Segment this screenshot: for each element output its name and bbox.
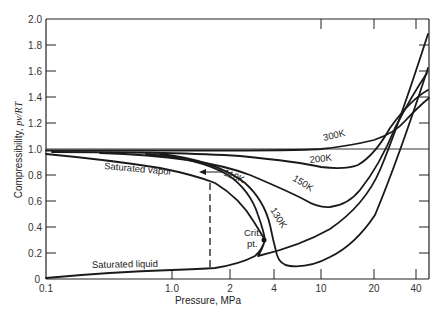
x-tick-label: 40 bbox=[410, 283, 422, 294]
y-axis-title: Compressibility, pv/RT bbox=[13, 100, 24, 198]
x-tick-label: 10 bbox=[315, 283, 327, 294]
compressibility-chart: 0 0.2 0.4 0.6 0.8 1.0 1.2 1.4 1.6 1.8 2.… bbox=[0, 0, 447, 318]
label-saturated-liquid: Saturated liquid bbox=[92, 258, 158, 270]
y-tick-label: 0.6 bbox=[28, 196, 42, 207]
y-tick-label: 0.2 bbox=[28, 248, 42, 259]
x-tick-label: 2 bbox=[227, 283, 233, 294]
curve-300k bbox=[46, 98, 429, 151]
x-tick-label: 4 bbox=[271, 283, 277, 294]
curves bbox=[46, 34, 429, 278]
label-crit: Crit. bbox=[244, 227, 261, 238]
y-tick-label: 1.2 bbox=[28, 118, 42, 129]
y-tick-label: 1.6 bbox=[28, 66, 42, 77]
y-tick-label: 2.0 bbox=[28, 14, 42, 25]
label-130k: 130K bbox=[268, 205, 289, 230]
y-tick-label: 0.4 bbox=[28, 222, 42, 233]
curve-130k bbox=[160, 68, 428, 266]
y-tick-label: 1.4 bbox=[28, 92, 42, 103]
curve-150k bbox=[100, 73, 427, 207]
x-axis-title: Pressure, MPa bbox=[175, 295, 242, 306]
x-tick-label: 0.1 bbox=[39, 283, 53, 294]
x-tick-labels: 0.1 1.0 2 4 10 20 40 bbox=[39, 283, 422, 294]
y-tick-label: 1.0 bbox=[28, 144, 42, 155]
y-axis-title-prefix: Compressibility, bbox=[13, 126, 24, 199]
y-tick-label: 1.8 bbox=[28, 40, 42, 51]
label-150k: 150K bbox=[291, 172, 316, 193]
x-tick-label: 20 bbox=[368, 283, 380, 294]
curve-200k bbox=[52, 90, 428, 168]
y-tick-label: 0.8 bbox=[28, 170, 42, 181]
label-pt: pt. bbox=[247, 238, 258, 249]
y-axis-title-var: pv/RT bbox=[13, 100, 24, 126]
critical-point-marker bbox=[262, 238, 267, 243]
y-tick-labels: 0 0.2 0.4 0.6 0.8 1.0 1.2 1.4 1.6 1.8 2.… bbox=[28, 14, 42, 285]
x-tick-label: 1.0 bbox=[165, 283, 179, 294]
label-saturated-vapor: Saturated vapor bbox=[104, 160, 172, 177]
label-200k: 200K bbox=[309, 152, 333, 165]
label-300k: 300K bbox=[322, 127, 347, 143]
